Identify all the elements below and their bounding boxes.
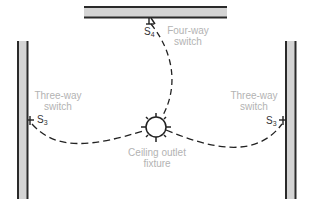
ceiling-outlet-fixture-label: Ceiling outlet fixture [122, 147, 192, 169]
three-way-right-switch-label: Three-way switch [226, 90, 282, 112]
four-way-switch-icon [146, 18, 155, 24]
three-way-switch-right-icon [279, 116, 286, 125]
wire-right-to-fixture [166, 124, 282, 147]
three-way-left-switch-label: Three-way switch [30, 90, 86, 112]
four-way-switch-label: Four-way switch [166, 25, 210, 47]
wire-left-to-fixture [32, 124, 146, 144]
three-way-right-switch-symbol: S3 [266, 116, 277, 129]
three-way-switch-left-icon [28, 116, 34, 125]
three-way-left-switch-symbol: S3 [37, 115, 48, 128]
four-way-switch-symbol: S4 [144, 27, 155, 40]
top-wall [84, 7, 227, 18]
ceiling-outlet-fixture-icon [141, 113, 171, 142]
